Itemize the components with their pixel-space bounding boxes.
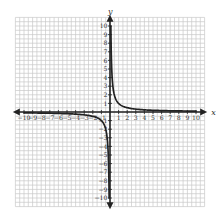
y-tick-label: 8 — [104, 39, 108, 46]
y-tick-label: −8 — [98, 177, 107, 184]
y-tick-label: 1 — [104, 100, 108, 107]
y-tick-label: 6 — [104, 57, 108, 64]
x-axis-right-arrow-icon — [200, 109, 207, 116]
x-tick-label: 3 — [134, 114, 138, 121]
x-tick-label: 10 — [192, 114, 200, 121]
y-axis-down-arrow-icon — [107, 202, 114, 209]
y-tick-label: −5 — [98, 151, 107, 158]
x-tick-label: 7 — [168, 114, 172, 121]
x-axis-label: x — [211, 108, 216, 117]
y-tick-label: −6 — [98, 160, 107, 167]
y-tick-label: −7 — [98, 168, 107, 175]
y-tick-label: −10 — [94, 194, 107, 201]
x-tick-label: 4 — [142, 114, 146, 121]
y-tick-label: 2 — [104, 91, 108, 98]
x-tick-label: 1 — [117, 114, 121, 121]
y-tick-label: 10 — [100, 22, 108, 29]
y-axis-up-arrow-icon — [107, 15, 114, 22]
y-axis-label: y — [107, 7, 113, 16]
y-tick-label: 9 — [104, 31, 108, 38]
y-tick-label: −4 — [98, 143, 107, 150]
y-tick-label: 5 — [104, 65, 108, 72]
x-tick-label: 9 — [185, 114, 189, 121]
x-tick-label: 8 — [177, 114, 181, 121]
y-tick-label: 3 — [104, 82, 108, 89]
y-tick-label: 7 — [104, 48, 108, 55]
x-tick-label: 6 — [160, 114, 164, 121]
axes — [13, 15, 207, 209]
y-tick-label: 4 — [104, 74, 108, 81]
hyperbola-chart: −10−9−8−7−6−5−4−3−2−112345678910−10−9−8−… — [0, 0, 223, 215]
y-tick-label: −9 — [98, 186, 107, 193]
x-tick-label: 2 — [125, 114, 129, 121]
x-tick-label: 5 — [151, 114, 155, 121]
